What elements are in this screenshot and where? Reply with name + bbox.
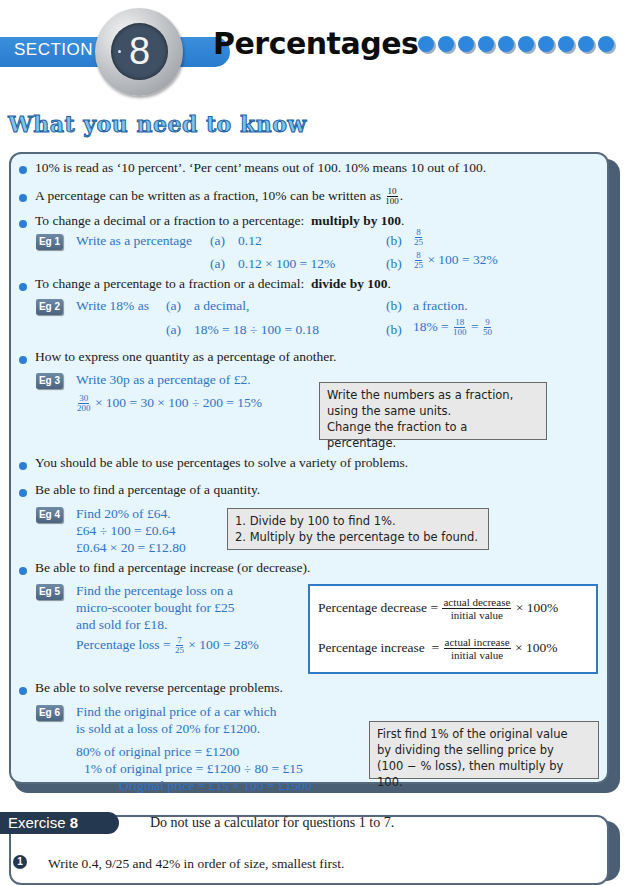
part-label: (a) [166, 298, 181, 314]
denominator: 100 [385, 197, 399, 206]
example-badge: Eg 1 [36, 234, 63, 250]
numerator: actual increase [444, 636, 511, 649]
key-point: Be able to find a percentage increase (o… [35, 560, 310, 576]
bullet-icon [19, 194, 27, 202]
dot-icon [438, 36, 454, 52]
working-tail: × 100 = 28% [188, 637, 258, 652]
key-point: Be able to find a percentage of a quanti… [35, 482, 260, 498]
hint-line: by dividing the selling price by [377, 742, 591, 758]
part-value: 0.12 [238, 233, 262, 249]
example-badge: Eg 4 [36, 507, 63, 523]
working: Percentage loss = 725 × 100 = 28% [76, 636, 259, 655]
bullet-icon [19, 283, 27, 291]
denominator: 200 [77, 404, 91, 413]
part-value: a fraction. [413, 298, 468, 314]
suffix: . [388, 276, 391, 291]
part-label: (b) [386, 233, 402, 249]
bullet-icon [19, 166, 27, 174]
bullet-icon [19, 356, 27, 364]
key-point: A percentage can be written as a fractio… [35, 187, 403, 206]
denominator: 50 [483, 328, 492, 337]
working-line: 80% of original price = £1200 [76, 743, 336, 760]
section-heading: What you need to know [8, 111, 307, 137]
working-line: 1% of original price = £1200 ÷ 80 = £15 [76, 760, 336, 777]
working: 30200 × 100 = 30 × 100 ÷ 200 = 15% [76, 394, 262, 413]
part-label: (b) [386, 298, 402, 314]
formula-tail: × 100% [516, 600, 558, 615]
working-line: £0.64 × 20 = £12.80 [76, 539, 186, 556]
example-question: Find the percentage loss on a micro-scoo… [76, 582, 235, 633]
part-value: a decimal, [194, 298, 249, 314]
formula-decrease: Percentage decrease = actual decreaseini… [318, 596, 558, 621]
question-line: Find the percentage loss on a [76, 582, 235, 599]
hint-box: Write the numbers as a fraction, using t… [319, 382, 547, 440]
question-line: Find the original price of a car which [76, 703, 277, 720]
denominator: 100 [453, 328, 467, 337]
section-label: SECTION [14, 40, 93, 60]
bullet-icon [19, 220, 27, 228]
dot-icon [518, 36, 534, 52]
answer-head: 18% = [413, 319, 449, 334]
page-title: Percentages [213, 26, 418, 61]
dot-icon [478, 36, 494, 52]
working-line: £64 ÷ 100 = £0.64 [76, 522, 186, 539]
dot-icon [558, 36, 574, 52]
example-working: Find 20% of £64. £64 ÷ 100 = £0.64 £0.64… [76, 505, 186, 556]
formula-increase: Percentage increase = actual increaseini… [318, 636, 557, 661]
dot-icon [538, 36, 554, 52]
fraction: 825 [413, 228, 424, 247]
example-question: Find the original price of a car which i… [76, 703, 277, 737]
example-badge: Eg 3 [36, 373, 63, 389]
working-head: Percentage loss = [76, 637, 171, 652]
question-text: Write 0.4, 9/25 and 42% in order of size… [48, 856, 344, 872]
hint-line: Change the fraction to a percentage. [327, 419, 539, 451]
bullet-icon [19, 567, 27, 575]
key-point: To change a decimal or a fraction to a p… [35, 213, 404, 229]
hint-box: First find 1% of the original value by d… [369, 721, 599, 779]
working-text: × 100 = 30 × 100 ÷ 200 = 15% [95, 395, 262, 410]
suffix: . [400, 188, 403, 203]
hint-line: (100 − % loss), then multiply by 100. [377, 758, 591, 790]
equals: = [471, 319, 479, 334]
denominator: 25 [414, 261, 423, 270]
example-question: Write 18% as [76, 298, 149, 314]
key-point: To change a percentage to a fraction or … [35, 276, 391, 292]
numerator: actual decrease [442, 596, 511, 609]
hint-line: using the same units. [327, 403, 539, 419]
answer: 0.12 × 100 = 12% [238, 256, 335, 272]
answer: 18% = 18100 = 950 [413, 318, 493, 337]
dot-icon [498, 36, 514, 52]
key-rule: multiply by 100 [311, 213, 401, 228]
bullet-icon [19, 687, 27, 695]
hint-line: Write the numbers as a fraction, [327, 387, 539, 403]
hint-line: First find 1% of the original value [377, 726, 591, 742]
hint-line: 1. Divide by 100 to find 1%. [235, 513, 481, 529]
key-point: Be able to solve reverse percentage prob… [35, 680, 283, 696]
example-badge: Eg 2 [36, 299, 63, 315]
part-label: (a) [166, 322, 181, 338]
key-point-text: A percentage can be written as a fractio… [35, 188, 381, 203]
formula-label: Percentage decrease [318, 600, 427, 615]
fraction: 10100 [385, 187, 399, 206]
key-point: You should be able to use percentages to… [35, 455, 408, 471]
example-question: Write as a percentage [76, 233, 192, 249]
formula-tail: × 100% [515, 640, 557, 655]
denominator: 25 [175, 646, 184, 655]
dot-icon [458, 36, 474, 52]
question-number-badge: 1 [13, 855, 27, 869]
key-point: How to express one quantity as a percent… [35, 349, 336, 365]
answer-tail: × 100 = 32% [427, 252, 497, 267]
exercise-label-text: Exercise [8, 814, 66, 831]
answer: 18% = 18 ÷ 100 = 0.18 [194, 322, 319, 338]
dot-icon [418, 36, 434, 52]
part-label: (b) [386, 256, 402, 272]
key-point-text: To change a decimal or a fraction to a p… [35, 213, 304, 228]
part-label: (a) [210, 233, 225, 249]
denominator: 25 [414, 238, 423, 247]
part-label: (b) [386, 322, 402, 338]
working-line: Find 20% of £64. [76, 505, 186, 522]
working-line: Original price = £15 × 100 = £1500 [76, 777, 336, 794]
key-point-text: To change a percentage to a fraction or … [35, 276, 304, 291]
key-rule: divide by 100 [311, 276, 388, 291]
example-working: 80% of original price = £1200 1% of orig… [76, 743, 336, 794]
